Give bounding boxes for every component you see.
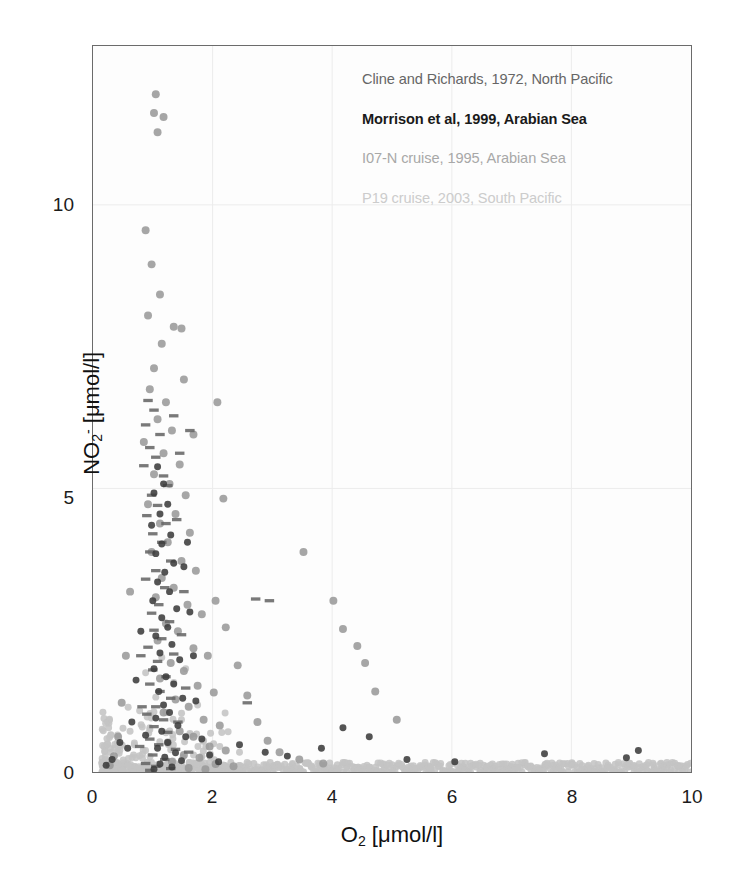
x-tick-8: 8 — [567, 786, 578, 808]
series-1 — [103, 463, 642, 772]
y-axis-title: NO2- [μmol/l] — [79, 49, 106, 777]
x-tick-10: 10 — [681, 786, 702, 808]
legend: Cline and Richards, 1972, North Pacific … — [362, 72, 682, 230]
x-axis-title-unit: [μmol/l] — [366, 822, 443, 847]
x-tick-2: 2 — [207, 786, 218, 808]
y-axis-title-unit: [μmol/l] — [79, 352, 104, 429]
legend-entry-p19: P19 cruise, 2003, South Pacific — [362, 191, 682, 206]
y-tick-0: 0 — [34, 762, 74, 784]
y-axis-title-species: NO — [79, 442, 104, 475]
y-tick-5: 5 — [34, 487, 74, 509]
legend-entry-i07n: I07-N cruise, 1995, Arabian Sea — [362, 151, 682, 166]
y-axis-title-subscript: 2 — [89, 434, 105, 442]
legend-entry-morrison: Morrison et al, 1999, Arabian Sea — [362, 112, 682, 127]
figure-container: Cline and Richards, 1972, North Pacific … — [0, 0, 730, 884]
y-axis-title-charge: - — [80, 429, 96, 434]
x-tick-0: 0 — [87, 786, 98, 808]
y-tick-10: 10 — [34, 194, 74, 216]
legend-entry-cline: Cline and Richards, 1972, North Pacific — [362, 72, 682, 87]
x-axis-title: O2 [μmol/l] — [92, 822, 692, 849]
x-tick-6: 6 — [447, 786, 458, 808]
x-axis-title-subscript: 2 — [358, 833, 366, 849]
x-tick-4: 4 — [327, 786, 338, 808]
x-axis-title-species: O — [341, 822, 358, 847]
